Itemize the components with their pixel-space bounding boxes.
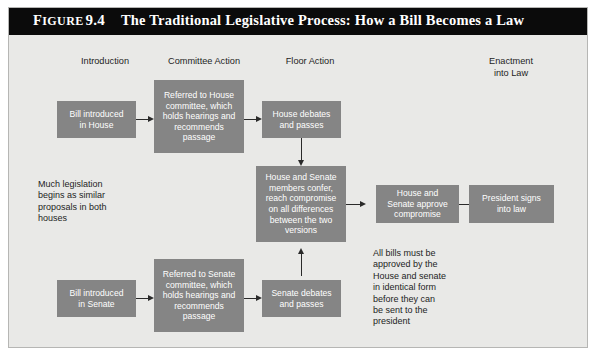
node-referred-to-senate-committee: Referred to Senate committee, which hold… <box>154 259 244 332</box>
figure-title-bar: FIGURE9.4The Traditional Legislative Pro… <box>9 8 587 35</box>
node-referred-to-house-committee: Referred to House committee, which holds… <box>154 80 244 153</box>
node-bill-introduced-in-senate: Bill introduced in Senate <box>57 280 136 317</box>
connector-senate-committee-to-floor <box>244 298 256 299</box>
node-bill-introduced-in-house: Bill introduced in House <box>57 101 136 138</box>
connector-house-intro-to-committee <box>136 119 148 120</box>
arrow-senate-floor-to-conference <box>298 248 304 254</box>
column-header-enactment-into-law: Enactment into Law <box>447 56 575 79</box>
connector-senate-floor-to-conference <box>301 254 302 276</box>
node-house-debates-and-passes: House debates and passes <box>262 101 341 138</box>
connector-house-floor-to-conference <box>301 138 302 160</box>
figure-title: FIGURE9.4The Traditional Legislative Pro… <box>33 12 524 29</box>
node-house-and-senate-approve-compromise: House and Senate approve compromise <box>376 185 459 223</box>
figure-number: 9.4 <box>86 12 105 28</box>
node-president-signs-into-law: President signs into law <box>469 185 554 223</box>
figure-panel: FIGURE9.4The Traditional Legislative Pro… <box>8 7 588 348</box>
connector-house-committee-to-floor <box>244 119 256 120</box>
note-much-legislation: Much legislation begins as similar propo… <box>38 179 158 225</box>
figure-title-text: The Traditional Legislative Process: How… <box>121 12 524 28</box>
arrow-conference-to-approve <box>360 201 366 207</box>
figure-label-word: FIGURE <box>33 14 84 28</box>
note-identical-form: All bills must be approved by the House … <box>373 248 493 328</box>
column-header-floor-action: Floor Action <box>246 56 374 68</box>
connector-senate-intro-to-committee <box>136 298 148 299</box>
node-conference-committee: House and Senate members confer, reach c… <box>256 166 346 242</box>
node-senate-debates-and-passes: Senate debates and passes <box>262 280 341 317</box>
connector-conference-to-approve <box>346 204 360 205</box>
